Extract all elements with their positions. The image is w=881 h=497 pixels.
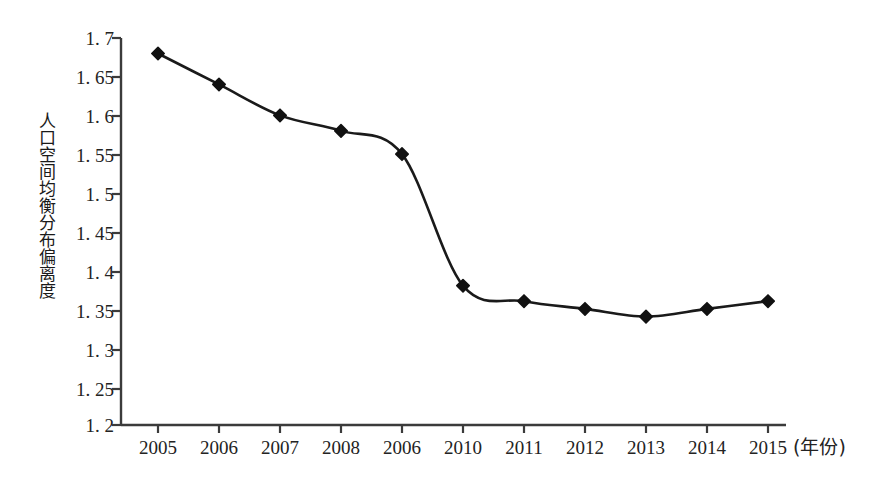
data-point-marker [701, 303, 713, 315]
data-point-marker [335, 125, 347, 137]
data-series-markers [152, 47, 774, 323]
data-point-marker [518, 295, 530, 307]
data-point-marker [213, 78, 225, 90]
y-axis-ticks [112, 38, 121, 425]
plot-area [0, 0, 881, 497]
x-axis-ticks [158, 425, 768, 433]
chart-figure: 人口空间均衡分布偏离度 1. 7 1. 65 1. 6 1. 55 1. 5 1… [0, 0, 881, 497]
data-series-line [158, 53, 768, 316]
axis-lines [121, 38, 786, 425]
data-point-marker [274, 109, 286, 121]
data-point-marker [640, 310, 652, 322]
data-point-marker [152, 47, 164, 59]
data-point-marker [579, 303, 591, 315]
data-point-marker [762, 295, 774, 307]
